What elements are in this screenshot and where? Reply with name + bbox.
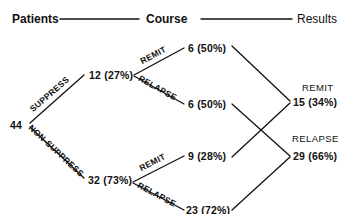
node-non-suppress-relapse: 23 (72%): [186, 205, 230, 214]
header-course: Course: [146, 13, 187, 25]
result-label-relapse: RELAPSE: [292, 134, 339, 144]
result-remit: 15 (34%): [293, 97, 337, 108]
node-suppress-relapse: 6 (50%): [188, 99, 226, 110]
node-suppress: 12 (27%): [89, 70, 133, 81]
edge-to-relapse-from-nonsuppress-relapse: [232, 157, 290, 210]
node-suppress-remit: 6 (50%): [188, 43, 226, 54]
result-label-remit: REMIT: [302, 83, 334, 93]
edge-to-remit-from-top: [232, 46, 290, 101]
node-non-suppress-remit: 9 (28%): [188, 151, 226, 162]
header-results: Results: [297, 13, 337, 25]
header-patients: Patients: [12, 13, 59, 25]
root-node: 44: [10, 120, 22, 131]
result-relapse: 29 (66%): [293, 151, 337, 162]
node-non-suppress: 32 (73%): [88, 175, 132, 186]
